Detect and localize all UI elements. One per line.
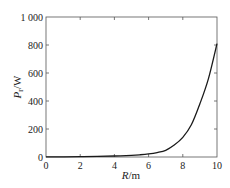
x-tick-label: 10 (212, 160, 222, 171)
x-tick-label: 0 (44, 160, 49, 171)
x-tick-label: 4 (112, 160, 117, 171)
y-tick-label: 0 (38, 152, 43, 163)
x-tick-label: 6 (146, 160, 151, 171)
y-tick-label: 1 000 (21, 12, 44, 23)
x-tick-label: 2 (78, 160, 83, 171)
power-curve (46, 44, 217, 157)
y-axis-tick-labels: 02004006008001 000 (21, 12, 44, 163)
y-tick-label: 200 (28, 124, 43, 135)
x-tick-label: 8 (180, 160, 185, 171)
y-axis-label: Pr/W (11, 75, 25, 99)
y-axis-ticks (46, 45, 217, 129)
y-tick-label: 600 (28, 68, 43, 79)
x-axis-ticks (80, 17, 183, 157)
line-chart: 0246810 02004006008001 000 R/m Pr/W (0, 0, 230, 188)
x-axis-label: R/m (121, 169, 141, 181)
y-axis-unit: /W (11, 75, 23, 89)
x-axis-unit: /m (129, 169, 141, 181)
plot-frame (46, 17, 217, 157)
y-tick-label: 800 (28, 40, 43, 51)
y-tick-label: 400 (28, 96, 43, 107)
